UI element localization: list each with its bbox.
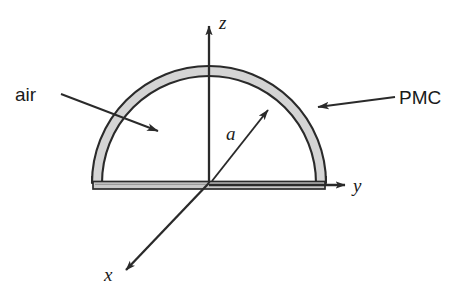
radius-label: a [226,123,236,144]
pmc-label: PMC [399,87,441,108]
figure-container: z y x a air PMC [0,0,464,305]
axis-y-label: y [351,175,362,196]
air-label: air [15,84,37,105]
hemisphere-pmc-diagram: z y x a air PMC [0,0,464,305]
axis-x-label: x [103,264,113,285]
axis-z-label: z [218,12,227,33]
